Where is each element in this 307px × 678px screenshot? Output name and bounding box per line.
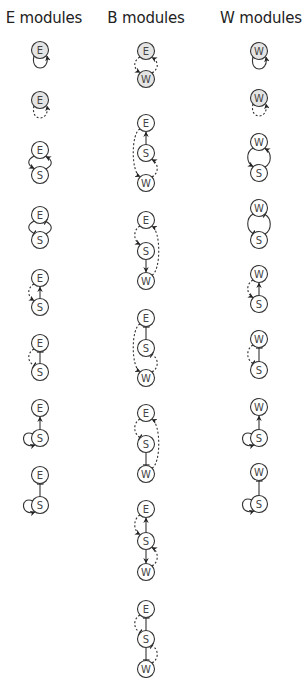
node-label: E: [37, 273, 43, 284]
module-diagram: EEESESESESESESEWESWESWESWESWESWESWWWWSWS…: [0, 0, 307, 678]
node-label: W: [254, 467, 264, 478]
node-label: S: [37, 170, 43, 181]
node-label: W: [254, 137, 264, 148]
node-label: S: [37, 367, 43, 378]
node-e: E: [32, 467, 49, 484]
node-e: E: [138, 310, 155, 327]
node-s: S: [138, 243, 155, 260]
inhibition-edge: [248, 214, 253, 234]
node-s: S: [251, 496, 268, 513]
node-label: E: [143, 118, 149, 129]
node-s: S: [251, 165, 268, 182]
node-label: W: [141, 276, 151, 287]
activation-edge-dashed: [152, 58, 157, 74]
node-s: S: [138, 436, 155, 453]
node-w: W: [251, 399, 268, 416]
activation-edge-dashed: [152, 548, 157, 567]
node-label: S: [143, 634, 149, 645]
node-s: S: [32, 167, 49, 184]
activation-edge-dashed: [152, 160, 157, 178]
node-w: W: [251, 464, 268, 481]
node-label: W: [254, 334, 264, 345]
node-s: S: [138, 145, 155, 162]
node-e: E: [32, 142, 49, 159]
node-label: S: [37, 302, 43, 313]
node-label: W: [254, 46, 264, 57]
node-s: S: [251, 232, 268, 249]
node-w: W: [251, 200, 268, 217]
node-label: S: [37, 235, 43, 246]
node-w: W: [138, 175, 155, 192]
node-label: E: [143, 604, 149, 615]
node-s: S: [138, 533, 155, 550]
node-label: W: [141, 74, 151, 85]
node-label: E: [37, 145, 43, 156]
node-w: W: [251, 90, 268, 107]
node-label: S: [143, 343, 149, 354]
node-w: W: [138, 71, 155, 88]
activation-edge-dashed: [135, 57, 140, 73]
node-e: E: [138, 501, 155, 518]
node-label: W: [254, 402, 264, 413]
node-label: S: [143, 148, 149, 159]
node-w: W: [138, 466, 155, 483]
node-label: E: [143, 215, 149, 226]
node-e: E: [138, 43, 155, 60]
activation-edge: [248, 148, 253, 167]
node-label: W: [141, 469, 151, 480]
inhibition-edge-dashed: [152, 646, 157, 664]
node-label: W: [141, 567, 151, 578]
node-s: S: [32, 232, 49, 249]
nodes-layer: EEESESESESESESEWESWESWESWESWESWESWWWWSWS…: [32, 42, 268, 678]
node-e: E: [32, 335, 49, 352]
node-label: S: [256, 433, 262, 444]
node-e: E: [138, 115, 155, 132]
node-w: W: [251, 331, 268, 348]
inhibition-edge-dashed: [135, 419, 140, 438]
node-label: E: [37, 210, 43, 221]
inhibition-edge-dashed: [135, 615, 140, 633]
node-label: S: [143, 246, 149, 257]
inhibition-edge-dashed: [29, 349, 34, 366]
node-w: W: [138, 564, 155, 581]
node-e: E: [138, 601, 155, 618]
activation-edge-dashed: [248, 280, 253, 298]
node-label: E: [143, 408, 149, 419]
node-e: E: [32, 207, 49, 224]
activation-edge: [29, 156, 34, 169]
inhibition-edge: [46, 222, 51, 235]
node-label: S: [256, 235, 262, 246]
inhibition-edge: [265, 215, 270, 235]
node-label: S: [256, 168, 262, 179]
node-e: E: [32, 42, 49, 59]
node-label: W: [141, 664, 151, 675]
node-label: E: [143, 504, 149, 515]
activation-edge-dashed: [135, 515, 140, 535]
node-e: E: [138, 212, 155, 229]
node-s: S: [32, 364, 49, 381]
node-e: E: [138, 405, 155, 422]
activation-edge: [46, 157, 51, 170]
inhibition-edge-dashed: [152, 355, 157, 373]
node-label: W: [141, 178, 151, 189]
node-label: S: [143, 439, 149, 450]
node-label: E: [37, 470, 43, 481]
node-label: W: [254, 269, 264, 280]
inhibition-edge-dashed: [248, 345, 253, 364]
node-s: S: [32, 299, 49, 316]
node-w: W: [138, 370, 155, 387]
node-label: E: [143, 313, 149, 324]
node-s: S: [251, 296, 268, 313]
node-label: E: [143, 46, 149, 57]
node-s: S: [138, 631, 155, 648]
node-s: S: [251, 430, 268, 447]
node-w: W: [138, 273, 155, 290]
node-label: S: [37, 433, 43, 444]
node-s: S: [138, 340, 155, 357]
node-label: S: [256, 299, 262, 310]
node-label: W: [141, 373, 151, 384]
node-label: S: [37, 500, 43, 511]
node-label: E: [37, 338, 43, 349]
node-w: W: [251, 134, 268, 151]
node-e: E: [32, 400, 49, 417]
